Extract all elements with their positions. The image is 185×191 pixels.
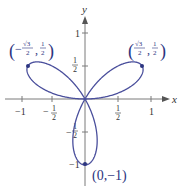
point-left-petal [26, 64, 30, 68]
svg-text:2: 2 [41, 49, 45, 57]
tick-label-y-neg-half-minus: − [66, 127, 72, 138]
polar-plot: x y −1 − 1 2 1 2 1 1 1 2 − 1 2 −1 [0, 0, 185, 191]
svg-text:(: ( [128, 41, 134, 62]
tick-label-x-neg-half-den: 2 [52, 113, 56, 122]
tick-label-x-pos1: 1 [149, 106, 154, 117]
svg-text:): ) [48, 41, 54, 62]
y-axis-arrow-icon [82, 16, 88, 24]
tick-label-y-half-num: 1 [73, 56, 77, 65]
y-axis-label: y [81, 3, 87, 15]
point-right-petal [140, 64, 144, 68]
tick-label-y-pos1: 1 [75, 28, 80, 39]
tick-label-x-neg-half-num: 1 [52, 104, 56, 113]
tick-label-x-half-num: 1 [116, 104, 120, 113]
svg-text:): ) [160, 41, 166, 62]
tick-label-x-neg1: −1 [15, 106, 26, 117]
tick-label-x-half-den: 2 [116, 113, 120, 122]
x-axis-label: x [171, 93, 177, 105]
svg-text:,: , [147, 43, 150, 57]
tick-label-x-neg-half-minus: − [43, 106, 49, 117]
point-bottom-petal [83, 162, 87, 166]
label-bottom-point: (0,−1) [92, 168, 127, 184]
x-axis-arrow-icon [162, 96, 170, 102]
svg-text:1: 1 [153, 40, 157, 48]
tick-label-y-half-den: 2 [73, 65, 77, 74]
svg-text:,: , [35, 43, 38, 57]
label-right-point: ( √3 2 , 1 2 ) [128, 40, 166, 62]
svg-text:√3: √3 [23, 40, 31, 48]
svg-text:−: − [15, 42, 22, 56]
svg-text:2: 2 [153, 49, 157, 57]
svg-text:1: 1 [41, 40, 45, 48]
svg-text:√3: √3 [135, 40, 143, 48]
svg-text:2: 2 [138, 49, 142, 57]
label-left-point: ( − √3 2 , 1 2 ) [9, 40, 54, 62]
svg-text:2: 2 [26, 49, 30, 57]
